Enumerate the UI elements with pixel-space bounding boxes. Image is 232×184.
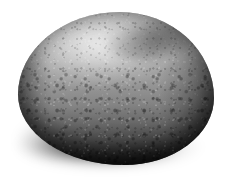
rock-body (18, 12, 214, 165)
rock-photograph (0, 0, 232, 184)
rock-edge-vignette (18, 12, 214, 165)
